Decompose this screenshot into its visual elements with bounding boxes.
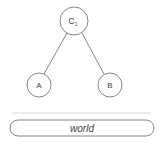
edge-root-b <box>82 33 104 74</box>
node-a: A <box>27 73 51 97</box>
node-b: B <box>98 73 122 97</box>
world-pill: world <box>10 120 154 136</box>
edge-root-a <box>44 33 67 74</box>
node-root: C1 <box>60 7 88 35</box>
svg-text:A: A <box>36 81 42 90</box>
svg-text:B: B <box>107 81 112 90</box>
svg-text:world: world <box>70 123 94 134</box>
tree-diagram: C1 A B world <box>0 0 161 147</box>
